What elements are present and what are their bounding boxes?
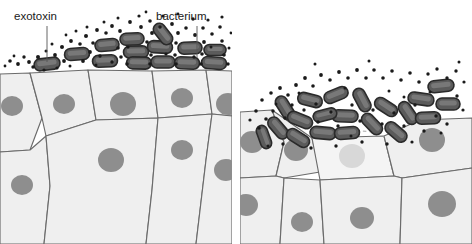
cell-l8-nucleus [171, 140, 193, 160]
exotoxin-dot [435, 67, 438, 70]
exotoxin-dot [170, 22, 174, 26]
exotoxin-dot [344, 87, 347, 90]
exotoxin-dot [445, 122, 448, 125]
exotoxin-dot [148, 19, 152, 23]
bacterium-highlight [130, 59, 149, 64]
exotoxin-dot [22, 55, 25, 58]
exotoxin-dot [60, 45, 64, 49]
cell-r6-nucleus [291, 212, 313, 232]
bacterium-highlight [439, 100, 457, 105]
exotoxin-dot [145, 40, 149, 44]
exotoxin-dot [329, 110, 332, 113]
cell-l1-nucleus [1, 96, 23, 116]
exotoxin-dot [271, 109, 274, 112]
cell-r6 [280, 178, 324, 244]
cell-l6-nucleus [11, 175, 33, 195]
exotoxin-dot [174, 41, 178, 45]
exotoxin-dot [267, 145, 270, 148]
exotoxin-label: exotoxin [14, 10, 57, 22]
exotoxin-dot [86, 26, 89, 29]
exotoxin-dot [264, 117, 268, 121]
exotoxin-dot [380, 122, 383, 125]
exotoxin-dot [230, 32, 233, 35]
exotoxin-dot [220, 15, 223, 18]
exotoxin-dot [434, 114, 437, 117]
exotoxin-dot [381, 76, 385, 80]
exotoxin-dot [294, 83, 298, 87]
exotoxin-dot [422, 129, 425, 132]
exotoxin-dot [346, 76, 350, 80]
exotoxin-dot [200, 52, 204, 56]
exotoxin-dot [126, 45, 129, 48]
exotoxin-dot [337, 70, 341, 74]
exotoxin-dot [278, 86, 282, 90]
bacterium-rod [310, 126, 337, 140]
exotoxin-dot [110, 60, 113, 63]
exotoxin-dot [16, 62, 20, 66]
exotoxin-dot [173, 53, 177, 57]
exotoxin-dot [81, 59, 85, 63]
exotoxin-dot [385, 142, 388, 145]
exotoxin-dot [303, 76, 307, 80]
exotoxin-dot [174, 62, 178, 66]
exotoxin-dot [95, 64, 98, 67]
cell-l4-nucleus [171, 88, 193, 108]
exotoxin-dot [372, 68, 376, 72]
exotoxin-dot [103, 21, 106, 24]
exotoxin-dot [88, 50, 92, 54]
exotoxin-dot [350, 103, 353, 106]
exotoxin-dot [316, 120, 319, 123]
cell-r7-nucleus [350, 207, 374, 229]
left-epithelial-cell-layer [0, 70, 240, 244]
exotoxin-dot [462, 80, 465, 83]
diagram-canvas: exotoxin bacterium [0, 0, 472, 244]
bacterium-label: bacterium [156, 10, 207, 22]
exotoxin-dot [51, 43, 54, 46]
exotoxin-dot [176, 31, 180, 35]
exotoxin-dot [192, 55, 195, 58]
bacterium-highlight [207, 47, 223, 51]
exotoxin-dot [8, 59, 12, 63]
exotoxin-dot [164, 52, 167, 55]
exotoxin-dot [248, 118, 251, 121]
exotoxin-dot [458, 61, 461, 64]
exotoxin-dot [336, 124, 339, 127]
exotoxin-dot [334, 144, 337, 147]
bacterium-rod [126, 57, 151, 69]
bacterium-rod [415, 112, 440, 125]
exotoxin-dot [260, 98, 264, 102]
bacterium-rod [178, 42, 202, 55]
exotoxin-dot [355, 68, 359, 72]
exotoxin-dot [390, 69, 394, 73]
exotoxin-dot [201, 26, 205, 30]
exotoxin-dot [149, 53, 153, 57]
bacterium-rod [120, 32, 145, 45]
exotoxin-dot [128, 20, 132, 24]
exotoxin-dot [184, 26, 188, 30]
exotoxin-dot [410, 140, 413, 143]
exotoxin-dot [269, 91, 273, 95]
exotoxin-dot [91, 41, 95, 45]
exotoxin-dot [440, 132, 443, 135]
exotoxin-dot [408, 71, 412, 75]
exotoxin-dot [125, 62, 129, 66]
bacterium-highlight [123, 35, 141, 41]
bacterium-rod [201, 56, 227, 70]
exotoxin-dot [98, 54, 101, 57]
exotoxin-dot [42, 68, 45, 71]
cell-r8-nucleus [428, 191, 456, 217]
exotoxin-dot [210, 46, 213, 49]
exotoxin-dot [36, 55, 40, 59]
exotoxin-dot [193, 33, 197, 37]
exotoxin-dot [117, 17, 120, 20]
exotoxin-dot [228, 47, 231, 50]
exotoxin-dot [104, 31, 108, 35]
exotoxin-dot [110, 24, 114, 28]
exotoxin-dot [69, 65, 72, 68]
exotoxin-dot [53, 53, 57, 57]
exotoxin-dot [403, 96, 406, 99]
exotoxin-dot [314, 102, 317, 105]
bacterium-rod [427, 79, 454, 94]
exotoxin-dot [290, 103, 293, 106]
exotoxin-dot [158, 25, 162, 29]
